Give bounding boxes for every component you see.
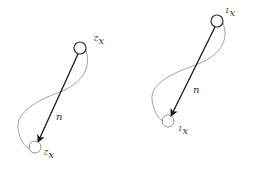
- left-panel: n x2 x2: [18, 34, 104, 162]
- right-arrow-label: n: [193, 84, 199, 95]
- left-arrow-label: n: [56, 111, 62, 122]
- right-bottom-label: x1: [178, 124, 188, 138]
- left-top-node: [74, 42, 86, 54]
- left-curve: [18, 50, 88, 148]
- right-top-label: x1: [225, 6, 235, 20]
- right-panel: n x1 x1: [152, 6, 235, 138]
- left-arrow: [38, 54, 78, 142]
- left-bottom-label: x2: [43, 148, 54, 162]
- right-curve: [152, 23, 225, 121]
- right-bottom-node: [162, 115, 174, 127]
- left-top-label: x2: [93, 34, 104, 48]
- right-arrow: [171, 27, 215, 116]
- left-bottom-node: [29, 141, 41, 153]
- diagram-canvas: n x2 x2 n x1 x1: [0, 0, 253, 179]
- right-top-node: [211, 15, 223, 27]
